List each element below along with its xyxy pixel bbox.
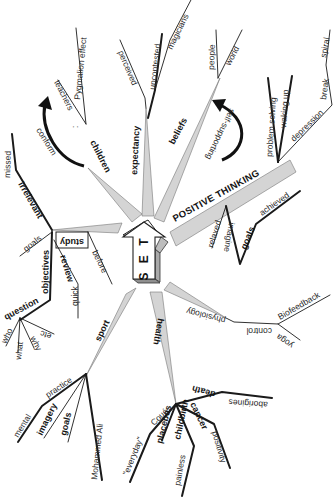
label-control: control (246, 326, 272, 336)
label-spiral: spiral (318, 36, 331, 58)
branch-health: health physiology control Biofeedback yo… (121, 289, 330, 496)
label-what: what (13, 341, 25, 362)
label-death: death (191, 383, 217, 399)
label-achieved: achieved (257, 190, 291, 218)
label-world: world (222, 44, 241, 68)
label-goals-sport: goals (58, 411, 73, 436)
label-pygmalion: Pygmalion effect (72, 36, 89, 100)
label-missed: missed (2, 151, 13, 179)
label-waking-up: waking up (278, 89, 291, 129)
label-break: break (318, 77, 331, 100)
label-objectives: objectives (40, 250, 51, 294)
set-label: S E T (137, 235, 151, 280)
label-children: children (88, 138, 113, 174)
label-expectancy: expectancy (129, 126, 142, 175)
label-physiology: physiology (184, 306, 226, 326)
branch-expectancy: expectancy perceived uncontested magicia… (116, 0, 192, 175)
spoke-sport (86, 288, 136, 376)
label-study: study (60, 237, 84, 247)
set-arrow: S E T (123, 220, 168, 283)
branch-children: children : teachers Pygmalion effect con… (34, 28, 113, 174)
branch-beliefs: beliefs people world self-supporting (167, 30, 242, 162)
label-people: people (206, 44, 217, 70)
label-uncontested: uncontested (147, 43, 163, 90)
label-quick: quick (70, 285, 80, 306)
spoke-health (150, 292, 176, 404)
label-question: question (2, 295, 40, 321)
label-cancer: cancer (188, 400, 210, 431)
label-aborigines: aborigines (228, 397, 268, 410)
label-magicians: magicians (165, 12, 191, 51)
label-before: before (90, 248, 110, 274)
label-biofeedback: Biofeedback (276, 289, 322, 321)
label-beliefs: beliefs (167, 116, 189, 146)
label-imagine: imagine (222, 222, 237, 253)
label-dot: : (70, 126, 80, 128)
label-positivity: positivity (210, 430, 229, 465)
label-depression: depression (288, 107, 325, 143)
label-conform: conform (34, 126, 59, 157)
branch-study: study before irrelevant missed goals obj… (0, 134, 112, 361)
arrowhead-conform-icon (38, 96, 52, 110)
curved-arrow-conform (44, 104, 84, 166)
label-irrelevant: irrelevant (16, 180, 45, 220)
label-imagery: imagery (35, 401, 59, 436)
branch-sport: sport practice mental imagery goals Moha… (11, 318, 111, 480)
label-who: who (0, 326, 15, 346)
label-perceived: perceived (116, 49, 140, 87)
spoke-expectancy (142, 108, 154, 216)
label-mohammed-ali: Mohammed Ali (89, 423, 105, 480)
label-review: review (58, 254, 76, 285)
mind-map-canvas: S E T children : teachers Pygmalion effe… (0, 0, 335, 502)
label-goals-positive: goals (239, 225, 257, 251)
spoke-children (88, 168, 142, 222)
